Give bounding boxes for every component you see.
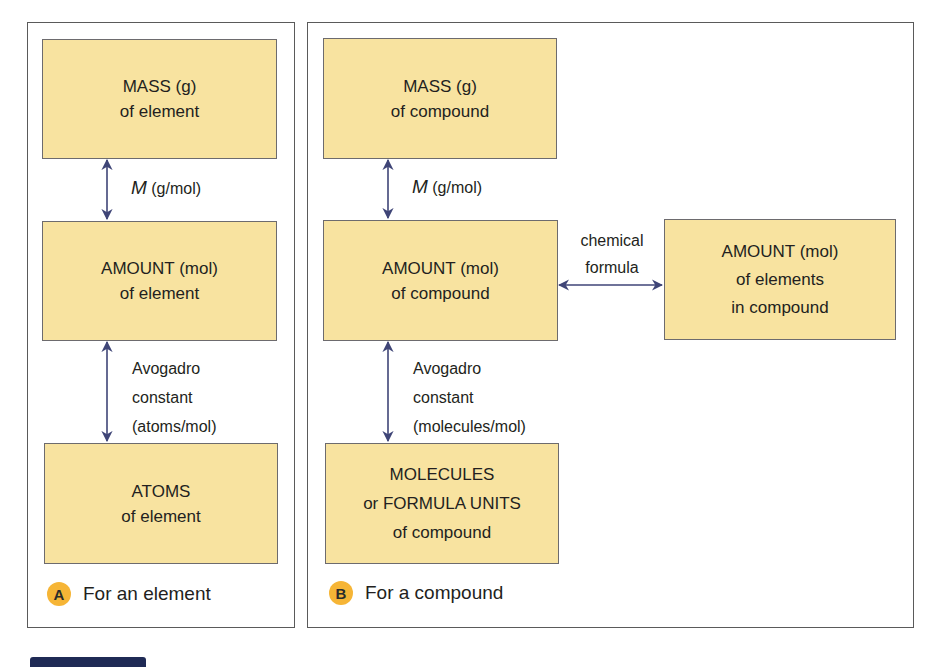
label-line: formula bbox=[568, 254, 656, 281]
label-line: chemical bbox=[568, 227, 656, 254]
box-amount-elements-in-compound: AMOUNT (mol) of elements in compound bbox=[664, 219, 896, 340]
box-mass-compound: MASS (g) of compound bbox=[323, 38, 557, 159]
label-line: (atoms/mol) bbox=[132, 412, 216, 441]
box-line: of compound bbox=[391, 281, 489, 306]
box-line: in compound bbox=[731, 294, 828, 322]
box-line: of compound bbox=[391, 99, 489, 124]
molar-mass-symbol: M bbox=[412, 176, 428, 197]
label-line: (molecules/mol) bbox=[413, 412, 526, 441]
label-line: constant bbox=[413, 383, 526, 412]
box-line: AMOUNT (mol) bbox=[382, 256, 499, 281]
avogadro-label: Avogadro constant (atoms/mol) bbox=[132, 354, 216, 441]
badge-b: B bbox=[329, 581, 353, 605]
caption-element: A For an element bbox=[47, 582, 211, 606]
molar-mass-label: M (g/mol) bbox=[412, 175, 482, 200]
molar-mass-label: M (g/mol) bbox=[131, 176, 201, 201]
molar-mass-symbol: M bbox=[131, 177, 147, 198]
box-line: of compound bbox=[393, 518, 491, 547]
box-line: or FORMULA UNITS bbox=[363, 489, 521, 518]
label-line: Avogadro bbox=[413, 354, 526, 383]
caption-text: For a compound bbox=[365, 582, 503, 604]
box-line: AMOUNT (mol) bbox=[722, 238, 839, 266]
caption-text: For an element bbox=[83, 583, 211, 605]
box-line: of element bbox=[120, 281, 199, 306]
box-line: of element bbox=[121, 504, 200, 529]
box-amount-compound: AMOUNT (mol) of compound bbox=[323, 220, 558, 341]
caption-compound: B For a compound bbox=[329, 581, 503, 605]
label-line: constant bbox=[132, 383, 216, 412]
figure-label-bar bbox=[30, 657, 146, 667]
box-amount-element: AMOUNT (mol) of element bbox=[42, 221, 277, 341]
box-line: ATOMS bbox=[132, 479, 191, 504]
box-line: of elements bbox=[736, 266, 824, 294]
box-molecules-compound: MOLECULES or FORMULA UNITS of compound bbox=[325, 443, 559, 564]
box-line: MOLECULES bbox=[390, 460, 495, 489]
box-line: AMOUNT (mol) bbox=[101, 256, 218, 281]
box-line: of element bbox=[120, 99, 199, 124]
box-atoms-element: ATOMS of element bbox=[44, 443, 278, 564]
label-line: Avogadro bbox=[132, 354, 216, 383]
box-mass-element: MASS (g) of element bbox=[42, 39, 277, 159]
molar-mass-unit: (g/mol) bbox=[432, 179, 482, 196]
chemical-formula-label: chemical formula bbox=[568, 227, 656, 281]
molar-mass-unit: (g/mol) bbox=[151, 180, 201, 197]
avogadro-label: Avogadro constant (molecules/mol) bbox=[413, 354, 526, 441]
box-line: MASS (g) bbox=[123, 74, 197, 99]
badge-a: A bbox=[47, 582, 71, 606]
box-line: MASS (g) bbox=[403, 74, 477, 99]
